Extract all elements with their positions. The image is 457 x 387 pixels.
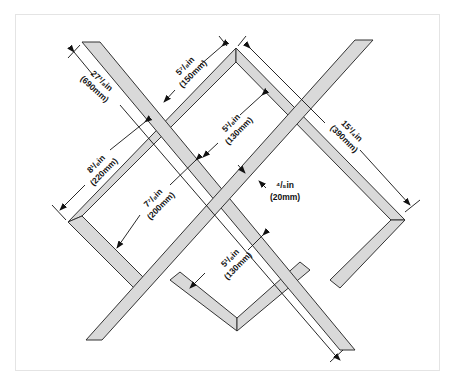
right-v-lower-arm [330,220,405,288]
top-v-right-arm [236,48,405,220]
wood-strips [68,40,405,350]
lattice-diagram: 27¹/₈in (690mm) 5⁷/₈in (150mm) 15¹/₄in (… [0,0,457,387]
label-strip-imperial: ⁴/₅in [276,180,294,190]
label-strip-metric: (20mm) [270,192,300,202]
